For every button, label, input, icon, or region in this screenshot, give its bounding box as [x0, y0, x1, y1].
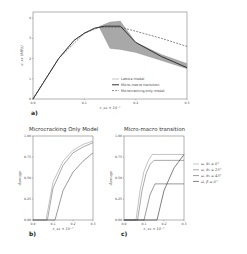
x-tick-label: 0.3	[181, 222, 186, 226]
y-tick-label: 4	[29, 16, 31, 20]
damage-curve	[124, 160, 184, 220]
panel-a-chart: 0.00.10.20.301234ε_xx × 10⁻¹σ_xx (MPa)La…	[20, 12, 190, 110]
y-tick-label: 0.50	[115, 176, 122, 180]
y-tick-label: 3	[29, 36, 31, 40]
x-axis-label: ε_xx × 10⁻¹	[144, 227, 166, 231]
x-tick-label: 0.0	[121, 222, 126, 226]
x-tick-label: 0.1	[141, 222, 146, 226]
x-tick-label: 0.2	[161, 222, 166, 226]
y-tick-label: 0.75	[24, 155, 31, 159]
legend-panel-a: Lattice modelMicro-macro transitionMicro…	[112, 77, 164, 93]
y-tick-label: 0.00	[24, 218, 31, 222]
damage-curve	[124, 154, 184, 220]
legend-entry: Lattice model	[121, 77, 144, 81]
x-tick-label: 0.0	[30, 101, 35, 105]
y-axis-label: damage	[18, 171, 22, 185]
damage-curve	[124, 184, 184, 220]
x-tick-label: 0.2	[133, 101, 138, 105]
y-tick-label: 0.25	[115, 197, 122, 201]
panel-c-label: c)	[121, 230, 128, 237]
panel-b-chart: 0.00.10.20.30.000.250.500.751.00ε_xx × 1…	[18, 134, 96, 230]
panel-b-label: b)	[29, 230, 36, 237]
panel-a-label: a)	[31, 109, 38, 116]
y-axis-label: σ_xx (MPa)	[20, 45, 24, 66]
y-tick-label: 0.00	[115, 218, 122, 222]
x-tick-label: 0.3	[184, 101, 189, 105]
y-tick-label: 0.25	[24, 197, 31, 201]
y-tick-label: 1.00	[24, 134, 31, 138]
y-tick-label: 0.75	[115, 155, 122, 159]
legend-entry: Microcracking only model	[121, 89, 164, 93]
x-tick-label: 0.2	[70, 222, 75, 226]
damage-curve	[33, 143, 93, 220]
x-tick-label: 0.0	[30, 222, 35, 226]
legend-entry: ω, θ₁ = 45°	[201, 174, 222, 178]
legend-panel-c: ω, θ₁ = 0°ω, θ₁ = 25°ω, θ₁ = 45°ω̄, β = …	[193, 162, 222, 183]
y-axis-label: damage	[109, 171, 113, 185]
legend-entry: Micro-macro transition	[121, 83, 159, 87]
y-tick-label: 1	[29, 77, 31, 81]
legend-entry: ω̄, β = 0°	[201, 180, 218, 184]
plot-frame	[33, 136, 93, 220]
series-lattice	[33, 27, 100, 99]
damage-curve	[33, 141, 93, 220]
panel-c-title: Micro-macro transition	[124, 126, 185, 132]
y-tick-label: 1.00	[115, 134, 122, 138]
y-tick-label: 2	[29, 57, 31, 61]
y-tick-label: 0.50	[24, 176, 31, 180]
x-tick-label: 0.3	[90, 222, 95, 226]
x-axis-label: ε_xx × 10⁻¹	[53, 227, 75, 231]
figure: 0.00.10.20.301234ε_xx × 10⁻¹σ_xx (MPa)La…	[0, 0, 247, 254]
x-tick-label: 0.1	[82, 101, 87, 105]
legend-entry: ω, θ₁ = 25°	[201, 168, 222, 172]
damage-curve	[124, 154, 184, 220]
plot-frame	[124, 136, 184, 220]
panel-b-title: Microcracking Only Model	[29, 126, 98, 133]
y-tick-label: 0	[29, 97, 31, 101]
damage-curve	[33, 153, 93, 220]
x-tick-label: 0.1	[50, 222, 55, 226]
legend-entry: ω, θ₁ = 0°	[201, 162, 219, 166]
panel-c-chart: 0.00.10.20.30.000.250.500.751.00ε_xx × 1…	[109, 134, 187, 230]
x-axis-label: ε_xx × 10⁻¹	[100, 106, 122, 110]
